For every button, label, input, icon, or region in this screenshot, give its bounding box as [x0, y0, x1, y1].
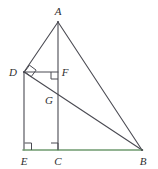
vertex-dots-group	[23, 21, 143, 151]
right-angle-marks-group	[25, 65, 59, 150]
point-label-A: A	[55, 6, 62, 17]
figure-canvas	[0, 0, 158, 169]
vertex-dot-A	[57, 21, 59, 23]
right-angle-mark-C	[51, 143, 58, 150]
segments-group	[23, 22, 143, 150]
segment-AB	[58, 22, 142, 150]
point-label-B: B	[140, 156, 147, 167]
point-label-D: D	[9, 67, 17, 78]
point-label-F: F	[62, 67, 69, 78]
right-angle-mark-D	[25, 65, 36, 77]
point-label-C: C	[54, 156, 61, 167]
geometry-figure: A D F G E C B	[0, 0, 158, 169]
right-angle-mark-E	[25, 143, 32, 150]
vertex-dot-B	[141, 149, 143, 151]
point-label-E: E	[21, 156, 28, 167]
right-angle-mark-F	[51, 72, 58, 79]
segment-AD	[24, 22, 58, 72]
segment-DB	[24, 72, 142, 150]
point-label-G: G	[45, 95, 53, 106]
vertex-dot-D	[23, 71, 25, 73]
